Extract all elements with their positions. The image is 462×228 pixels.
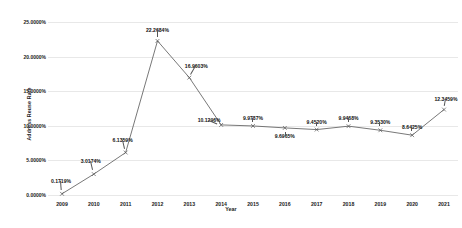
data-point-marker — [187, 76, 191, 80]
line-chart: Address Reuse Rate 0.0000%5.0000%10.0000… — [0, 0, 462, 228]
data-point-label: 9.9787% — [243, 115, 263, 121]
leader-line — [348, 118, 349, 122]
data-point-label: 9.3530% — [370, 119, 390, 125]
data-point-label: 16.9603% — [185, 63, 208, 69]
leader-line — [285, 132, 286, 136]
data-point-marker — [92, 172, 96, 176]
y-tick-label: 15.0000% — [8, 88, 46, 94]
data-point-marker — [442, 108, 446, 112]
data-point-label: 8.6425% — [402, 124, 422, 130]
y-tick-label: 10.0000% — [8, 123, 46, 129]
y-tick-label: 20.0000% — [8, 54, 46, 60]
leader-line — [252, 118, 253, 122]
y-tick-label: 0.0000% — [8, 192, 46, 198]
leader-line — [316, 122, 317, 126]
y-tick-label: 25.0000% — [8, 19, 46, 25]
data-point-marker — [60, 192, 64, 196]
y-axis-tick-labels: 0.0000%5.0000%10.0000%15.0000%20.0000%25… — [8, 0, 46, 228]
leader-line — [157, 30, 158, 37]
y-tick-label: 5.0000% — [8, 157, 46, 163]
x-axis-title: Year — [0, 206, 462, 212]
